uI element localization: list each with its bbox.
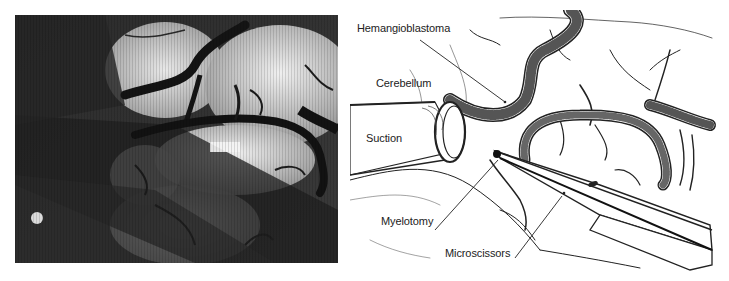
illustration-graphic: [350, 10, 722, 272]
photo-graphic: [15, 15, 338, 263]
label-microscissors: Microscissors: [445, 247, 510, 259]
label-suction: Suction: [366, 132, 402, 144]
intraoperative-photo: [15, 15, 338, 263]
label-hemangioblastoma: Hemangioblastoma: [357, 22, 450, 34]
microscissors-instrument: [493, 150, 712, 270]
surgical-illustration: Hemangioblastoma Cerebellum Suction Myel…: [350, 10, 722, 272]
label-myelotomy: Myelotomy: [381, 215, 433, 227]
label-cerebellum: Cerebellum: [376, 77, 431, 89]
